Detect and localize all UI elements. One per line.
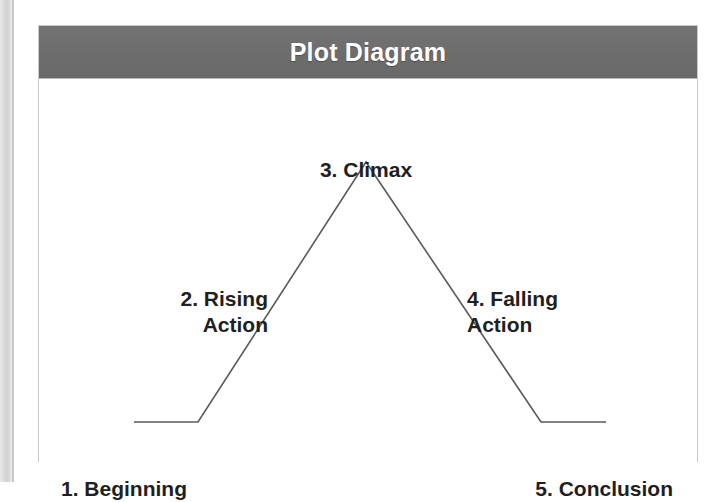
plot-diagram-body: 3. Climax 2. Rising Action 4. Falling Ac… <box>39 79 697 462</box>
page-edge-strip <box>0 0 14 482</box>
label-conclusion: 5. Conclusion <box>535 476 673 502</box>
label-beginning: 1. Beginning <box>61 476 187 502</box>
plot-diagram-card: Plot Diagram 3. Climax 2. Rising Action … <box>38 25 698 462</box>
label-falling-action: 4. Falling Action <box>467 286 647 338</box>
page-title: Plot Diagram <box>290 38 447 67</box>
label-rising-action: 2. Rising Action <box>94 286 268 338</box>
diagram-title-bar: Plot Diagram <box>39 26 697 79</box>
plot-arc-chart <box>39 79 699 462</box>
label-climax: 3. Climax <box>35 157 697 183</box>
